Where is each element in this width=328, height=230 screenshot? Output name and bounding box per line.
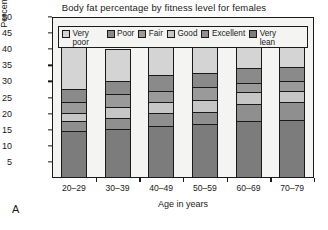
bar-segment-very-poor bbox=[280, 48, 304, 67]
y-tick-label: 5 bbox=[0, 157, 12, 166]
bar-30–39 bbox=[105, 49, 131, 178]
y-tick-label: 50 bbox=[0, 13, 12, 22]
bar-segment-very-poor bbox=[237, 48, 261, 69]
bar-segment-good bbox=[193, 101, 217, 112]
bar-segment-good bbox=[106, 108, 130, 119]
bar-segment-excellent bbox=[106, 119, 130, 130]
x-tick-label: 40–49 bbox=[137, 183, 185, 193]
x-tick-mark bbox=[270, 178, 271, 182]
bar-segment-fair bbox=[62, 103, 86, 114]
x-tick-mark bbox=[139, 178, 140, 182]
bar-segment-very-lean bbox=[193, 125, 217, 177]
legend-item-fair: Fair bbox=[138, 29, 163, 38]
bar-20–29 bbox=[61, 47, 87, 178]
bar-40–49 bbox=[148, 46, 174, 178]
bar-segment-excellent bbox=[280, 103, 304, 121]
bar-segment-very-poor bbox=[149, 47, 173, 76]
x-tick-mark bbox=[183, 178, 184, 182]
bar-segment-excellent bbox=[193, 113, 217, 126]
x-tick-label: 20–29 bbox=[50, 183, 98, 193]
bar-segment-poor bbox=[149, 76, 173, 92]
bar-segment-very-lean bbox=[62, 132, 86, 177]
legend-item-good: Good bbox=[167, 29, 198, 38]
legend-swatch bbox=[138, 30, 146, 38]
chart-container: Body fat percentage by fitness level for… bbox=[0, 0, 328, 230]
legend-label: Fair bbox=[149, 29, 163, 38]
legend-swatch bbox=[249, 30, 257, 38]
bar-segment-very-lean bbox=[280, 121, 304, 177]
bar-segment-excellent bbox=[149, 114, 173, 127]
bar-segment-poor bbox=[280, 68, 304, 82]
y-tick-label: 10 bbox=[0, 141, 12, 150]
bar-segment-excellent bbox=[237, 105, 261, 123]
bar-60–69 bbox=[236, 47, 262, 178]
bar-segment-fair bbox=[280, 82, 304, 92]
legend-swatch bbox=[107, 30, 115, 38]
bar-segment-fair bbox=[149, 92, 173, 103]
legend-swatch bbox=[62, 30, 70, 38]
chart-title: Body fat percentage by fitness level for… bbox=[0, 2, 328, 13]
x-tick-label: 70–79 bbox=[268, 183, 316, 193]
bar-segment-poor bbox=[62, 90, 86, 103]
bar-segment-good bbox=[280, 92, 304, 103]
chart-legend: Very poorPoorFairGoodExcellentVery lean bbox=[58, 26, 308, 48]
legend-item-poor: Poor bbox=[107, 29, 135, 38]
legend-swatch bbox=[167, 30, 175, 38]
y-tick-label: 20 bbox=[0, 109, 12, 118]
legend-label: Very lean bbox=[260, 29, 290, 47]
bar-segment-very-lean bbox=[237, 122, 261, 177]
y-tick-label: 25 bbox=[0, 93, 12, 102]
bar-segment-good bbox=[237, 93, 261, 104]
x-tick-mark bbox=[314, 178, 315, 182]
y-tick-label: 30 bbox=[0, 77, 12, 86]
legend-label: Very poor bbox=[73, 29, 103, 47]
legend-item-very-poor: Very poor bbox=[62, 29, 103, 47]
y-tick-label: 35 bbox=[0, 61, 12, 70]
bar-segment-poor bbox=[237, 69, 261, 83]
y-tick-label: 45 bbox=[0, 29, 12, 38]
bar-segment-very-poor bbox=[193, 48, 217, 74]
x-tick-label: 50–59 bbox=[181, 183, 229, 193]
bar-segment-good bbox=[62, 114, 86, 122]
bar-segment-very-poor bbox=[106, 50, 130, 82]
bar-segment-fair bbox=[193, 88, 217, 101]
legend-swatch bbox=[201, 30, 209, 38]
bar-segment-poor bbox=[193, 74, 217, 88]
legend-item-very-lean: Very lean bbox=[249, 29, 290, 47]
x-tick-mark bbox=[96, 178, 97, 182]
bar-segment-very-lean bbox=[106, 130, 130, 177]
bar-segment-excellent bbox=[62, 122, 86, 132]
x-tick-label: 30–39 bbox=[94, 183, 142, 193]
bar-50–59 bbox=[192, 47, 218, 178]
y-tick-label: 15 bbox=[0, 125, 12, 134]
legend-label: Good bbox=[177, 29, 197, 38]
x-tick-mark bbox=[227, 178, 228, 182]
bar-segment-good bbox=[149, 103, 173, 114]
bar-segment-fair bbox=[237, 84, 261, 94]
legend-item-excellent: Excellent bbox=[201, 29, 245, 38]
bar-segment-very-lean bbox=[149, 127, 173, 177]
bar-segment-fair bbox=[106, 95, 130, 108]
y-tick-label: 40 bbox=[0, 45, 12, 54]
bar-segment-very-poor bbox=[62, 48, 86, 90]
x-axis-label: Age in years bbox=[52, 199, 314, 209]
bar-70–79 bbox=[279, 47, 305, 178]
panel-label: A bbox=[12, 203, 19, 215]
legend-label: Excellent bbox=[212, 29, 245, 38]
bar-segment-poor bbox=[106, 82, 130, 95]
x-tick-label: 60–69 bbox=[225, 183, 273, 193]
legend-label: Poor bbox=[117, 29, 134, 38]
